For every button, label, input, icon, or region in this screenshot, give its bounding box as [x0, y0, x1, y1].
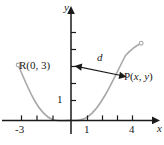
y-axis-label: y — [64, 2, 69, 13]
x-axis-label: x — [157, 123, 162, 134]
distance-arrow-group — [75, 63, 127, 79]
distance-arrow-line — [79, 67, 121, 76]
point-label-p: P(x, y) — [124, 71, 153, 82]
point-label-r: R(0, 3) — [19, 60, 50, 71]
curve-endpoint-right — [139, 41, 143, 45]
y-axis-group — [67, 6, 76, 134]
point-p-suffix: ) — [149, 70, 153, 82]
y-tick-label-1: 1 — [57, 94, 63, 105]
distance-label: d — [97, 52, 103, 63]
x-tick-label-1: 1 — [84, 124, 90, 135]
x-axis-group — [2, 115, 160, 124]
parabola-curve — [18, 43, 141, 121]
x-tick-label-4: 4 — [129, 124, 135, 135]
parabola-distance-figure: y x -3 1 4 1 R(0, 3) P(x, y) d — [0, 0, 164, 145]
x-tick-label-neg3: -3 — [15, 124, 24, 135]
point-p-prefix: P( — [124, 70, 134, 82]
